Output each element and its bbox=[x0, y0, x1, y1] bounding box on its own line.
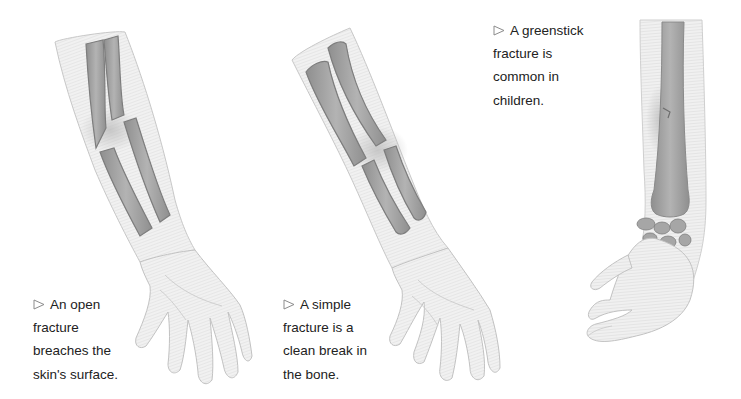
caption-line: the bone. bbox=[283, 363, 367, 386]
triangle-bullet-icon bbox=[493, 25, 505, 36]
greenstick-fracture-arm-illustration bbox=[587, 20, 706, 341]
caption-line: A simple bbox=[283, 293, 367, 316]
caption-greenstick-fracture: A greenstick fracture is common in child… bbox=[493, 19, 584, 112]
caption-simple-fracture: A simple fracture is a clean break in th… bbox=[283, 293, 367, 386]
caption-line: fracture is a bbox=[283, 316, 367, 339]
caption-text: A greenstick bbox=[510, 23, 584, 38]
caption-line: A greenstick bbox=[493, 19, 584, 42]
caption-text: A simple bbox=[300, 297, 351, 312]
caption-line: skin's surface. bbox=[33, 363, 118, 386]
caption-line: common in bbox=[493, 65, 584, 88]
caption-line: fracture is bbox=[493, 42, 584, 65]
caption-line: children. bbox=[493, 89, 584, 112]
caption-text: An open bbox=[50, 297, 100, 312]
caption-line: breaches the bbox=[33, 339, 118, 362]
caption-line: An open bbox=[33, 293, 118, 316]
caption-open-fracture: An open fracture breaches the skin's sur… bbox=[33, 293, 118, 386]
caption-line: clean break in bbox=[283, 339, 367, 362]
caption-line: fracture bbox=[33, 316, 118, 339]
triangle-bullet-icon bbox=[33, 299, 45, 310]
triangle-bullet-icon bbox=[283, 299, 295, 310]
